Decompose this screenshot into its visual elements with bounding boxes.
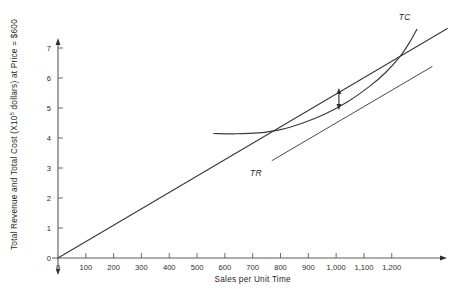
x-tick-label: 1,000 <box>327 263 346 272</box>
tc-series-label: TC <box>399 12 412 22</box>
x-tick-label: 900 <box>302 263 315 272</box>
y-tick-label: 6 <box>47 74 51 83</box>
y-tick-label: 1 <box>47 224 51 233</box>
x-tick-label: 300 <box>135 263 148 272</box>
y-tick-label: 4 <box>47 134 51 143</box>
x-axis: 01002003004005006007008009001,0001,1001,… <box>52 253 447 275</box>
chart-figure: 01234567 01002003004005006007008009001,0… <box>0 0 452 290</box>
max-profit-gap-arrowhead-bottom <box>337 104 342 110</box>
x-tick-label: 100 <box>79 263 92 272</box>
y-axis-title-post: dollars) at Price = $600 <box>10 19 19 112</box>
series-group <box>58 29 447 259</box>
x-tick-label: 800 <box>274 263 287 272</box>
y-tick-group <box>58 48 63 228</box>
x-tick-label: 700 <box>246 263 259 272</box>
x-tick-label: 1,200 <box>382 263 401 272</box>
x-tick-label: 600 <box>219 263 232 272</box>
y-axis: 01234567 <box>47 38 63 263</box>
tc-curve <box>214 29 417 133</box>
y-tick-label: 0 <box>47 254 51 263</box>
y-tick-label: 2 <box>47 194 51 203</box>
x-tick-label: 400 <box>163 263 176 272</box>
x-tick-label: 500 <box>191 263 204 272</box>
tr-series-label: TR <box>250 168 262 178</box>
y-tick-label: 7 <box>47 44 51 53</box>
y-axis-arrowhead <box>56 38 61 45</box>
tr-line <box>58 29 447 259</box>
chart-plot-area: 01234567 01002003004005006007008009001,0… <box>0 0 452 290</box>
x-tick-label: 1,100 <box>354 263 373 272</box>
x-tick-label: 200 <box>107 263 120 272</box>
y-axis-title: Total Revenue and Total Cost (X105 dolla… <box>9 19 19 250</box>
x-tick-group <box>86 253 392 258</box>
x-axis-title: Sales per Unit Time <box>215 275 291 284</box>
y-ticklabel-group: 01234567 <box>47 44 51 263</box>
y-tick-label: 3 <box>47 164 51 173</box>
x-axis-arrowhead <box>440 256 447 261</box>
y-tick-label: 5 <box>47 104 51 113</box>
x-ticklabel-group: 01002003004005006007008009001,0001,1001,… <box>56 263 401 272</box>
x-tick-label: 0 <box>56 263 60 272</box>
tangent-line <box>272 67 432 161</box>
y-axis-title-pre: Total Revenue and Total Cost (X10 <box>10 115 19 250</box>
